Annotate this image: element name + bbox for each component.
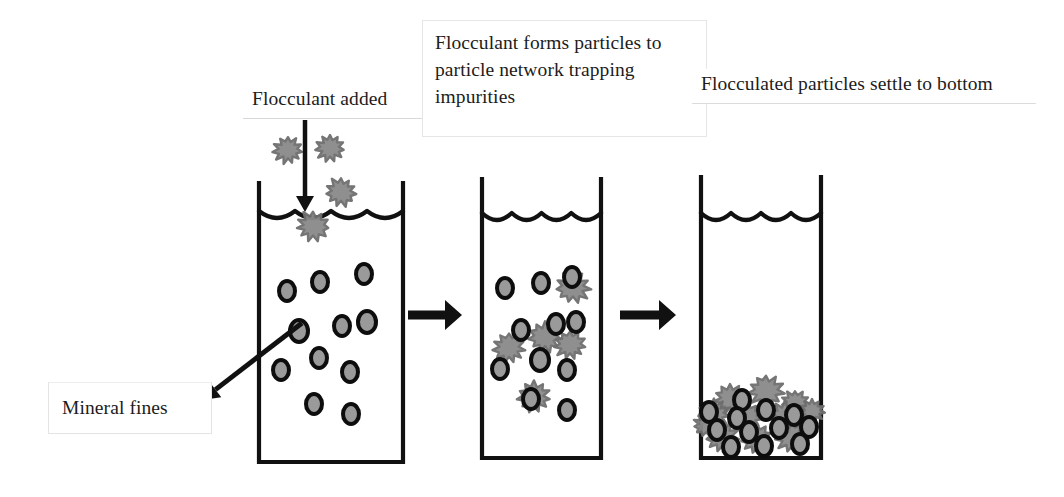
- beaker-2-mineral-fine: [497, 278, 513, 298]
- beaker-2-mineral-fine: [531, 349, 549, 371]
- beaker-3-mineral-fine: [709, 420, 725, 440]
- beaker-3-mineral-fine: [758, 400, 774, 420]
- arrow-stage-1-to-2-shape: [408, 300, 462, 330]
- beaker-1-water-line: [259, 211, 403, 218]
- beaker-3-mineral-fine: [723, 437, 739, 457]
- beaker-2-water-line: [482, 213, 601, 220]
- added-floc-particle: [315, 135, 343, 162]
- beaker-2-floc-particle: [554, 332, 585, 359]
- arrow-stage-2-to-3: [620, 300, 676, 330]
- beaker-1-mineral-fine: [343, 404, 359, 424]
- beaker-3-mineral-fine: [771, 418, 787, 438]
- beaker-1-mineral-fine: [311, 348, 327, 368]
- arrow-stage-2-to-3-shape: [620, 300, 676, 330]
- beaker-1-mineral-fine: [273, 360, 289, 380]
- beaker-2-mineral-fine: [559, 400, 575, 420]
- beaker-1-mineral-fine: [279, 281, 295, 301]
- flocculant-added-particles: [273, 135, 357, 241]
- beaker-1-mineral-fine: [306, 394, 322, 414]
- beaker-1-mineral-fine: [312, 272, 328, 292]
- beaker-2-mineral-fine: [548, 314, 564, 334]
- beaker-1-fines: [273, 264, 376, 424]
- added-floc-particle: [273, 137, 303, 164]
- beaker-2-mineral-fine: [523, 389, 539, 409]
- callout-mineral-fines: Mineral fines: [48, 382, 212, 434]
- beaker-3-mineral-fine: [792, 434, 808, 454]
- beaker-3-mineral-fine: [786, 405, 802, 425]
- beaker-2-mineral-fine: [492, 359, 508, 379]
- beaker-2-mineral-fine: [513, 320, 529, 340]
- beaker-3-mineral-fine: [741, 422, 757, 442]
- flocculation-diagram: Flocculant added Flocculant forms partic…: [0, 0, 1064, 497]
- beaker-2-mineral-fine: [564, 267, 580, 287]
- flocculant-dosing-arrow: [296, 120, 314, 212]
- arrow-stage-1-to-2: [408, 300, 462, 330]
- dosing-arrow-head: [296, 196, 314, 212]
- callout-flocculant-added: Flocculant added: [243, 84, 426, 119]
- beaker-1-mineral-fine: [342, 362, 358, 382]
- beaker-1-mineral-fine: [356, 264, 372, 284]
- beaker-1-mineral-fine: [334, 316, 350, 336]
- callout-flocculant-network: Flocculant forms particles to particle n…: [422, 20, 707, 137]
- callout-particles-settle: Flocculated particles settle to bottom: [692, 69, 1036, 104]
- beaker-2-mineral-fine: [568, 312, 584, 332]
- beaker-3-mineral-fine: [756, 436, 772, 456]
- beaker-2-mineral-fine: [559, 360, 575, 380]
- beaker-1-mineral-fine: [358, 311, 376, 333]
- beaker-3-water-line: [701, 213, 821, 220]
- beaker-1: [259, 183, 403, 462]
- beaker-1-vessel-outline: [259, 183, 403, 462]
- added-floc-particle: [327, 178, 357, 207]
- beaker-2-mineral-fine: [533, 273, 549, 293]
